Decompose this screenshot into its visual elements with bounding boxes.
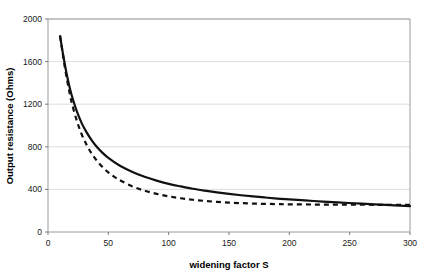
x-axis-tick-label: 200 bbox=[282, 238, 296, 248]
y-axis-tick-label: 1200 bbox=[23, 99, 42, 109]
x-axis-tick-label: 300 bbox=[403, 238, 417, 248]
x-axis-tick-label: 0 bbox=[46, 238, 51, 248]
y-axis-tick-label: 400 bbox=[28, 184, 42, 194]
y-axis-tick-label: 800 bbox=[28, 142, 42, 152]
x-axis-title: widening factor S bbox=[188, 259, 268, 270]
x-axis-tick-label: 250 bbox=[343, 238, 357, 248]
chart-background bbox=[0, 0, 424, 276]
output-resistance-chart: 0400800120016002000 050100150200250300 w… bbox=[0, 0, 424, 276]
y-axis-tick-label: 0 bbox=[37, 227, 42, 237]
x-axis-tick-label: 50 bbox=[104, 238, 114, 248]
chart-container: 0400800120016002000 050100150200250300 w… bbox=[0, 0, 424, 276]
x-axis-tick-label: 100 bbox=[162, 238, 176, 248]
y-axis-tick-label: 1600 bbox=[23, 57, 42, 67]
x-axis-tick-label: 150 bbox=[222, 238, 236, 248]
y-axis-title: Output resistance (Ohms) bbox=[4, 68, 15, 185]
y-axis-tick-label: 2000 bbox=[23, 14, 42, 24]
